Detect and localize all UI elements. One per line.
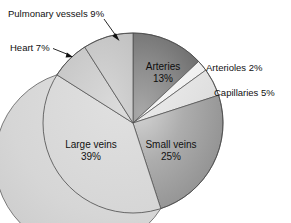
label-heart: Heart 7% bbox=[10, 42, 50, 53]
label-small-veins-value: 25% bbox=[161, 151, 181, 162]
leader-line-pulmonary-vessels bbox=[104, 19, 117, 37]
pie-chart-canvas: Pulmonary vessels 9% Heart 7% Arterioles… bbox=[0, 0, 291, 223]
label-large-veins-name: Large veins bbox=[65, 139, 117, 150]
pie-chart-figure: Pulmonary vessels 9% Heart 7% Arterioles… bbox=[0, 0, 291, 223]
label-capillaries: Capillaries 5% bbox=[214, 87, 275, 98]
arrowhead-heart bbox=[66, 53, 73, 58]
label-arterioles: Arterioles 2% bbox=[206, 62, 263, 73]
label-large-veins-value: 39% bbox=[81, 151, 101, 162]
leader-line-heart bbox=[53, 49, 68, 55]
label-small-veins-name: Small veins bbox=[145, 139, 196, 150]
label-pulmonary-vessels: Pulmonary vessels 9% bbox=[8, 8, 105, 19]
label-arteries-name: Arteries bbox=[146, 61, 180, 72]
label-arteries-value: 13% bbox=[153, 73, 173, 84]
